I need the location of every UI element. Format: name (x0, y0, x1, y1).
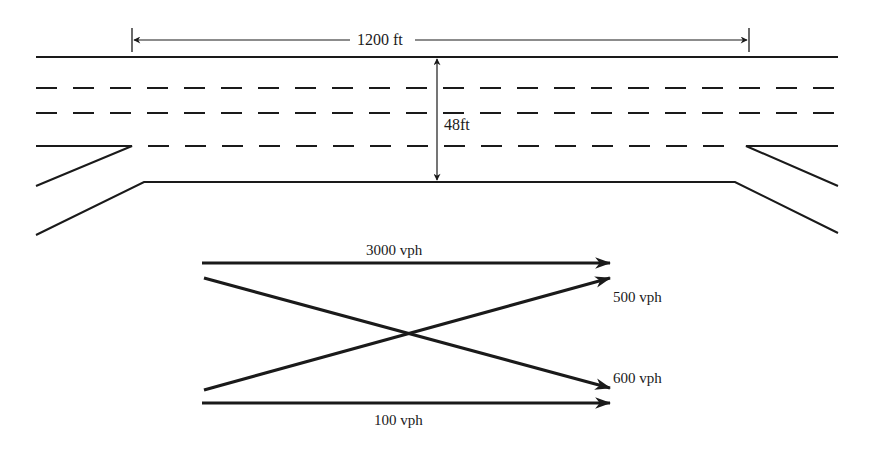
flow-diagram (202, 263, 610, 403)
weaving-diagram (0, 0, 877, 464)
flow-label-3000: 3000 vph (366, 243, 422, 258)
length-dimension (132, 28, 749, 52)
width-label: 48ft (444, 117, 470, 133)
length-label: 1200 ft (353, 32, 407, 48)
flow-label-600: 600 vph (613, 371, 662, 386)
bottom-road-edge (36, 182, 838, 235)
off-ramp-gore (746, 146, 838, 186)
flow-label-500: 500 vph (613, 290, 662, 305)
flow-label-100: 100 vph (374, 413, 423, 428)
on-ramp-gore (36, 146, 132, 186)
